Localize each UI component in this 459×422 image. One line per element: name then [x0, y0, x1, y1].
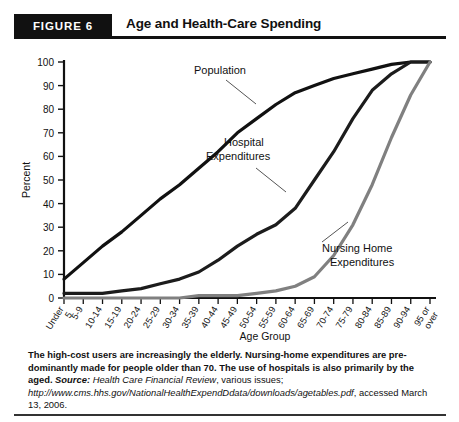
- annotation-hospital-expenditures-line2: Expenditures: [206, 150, 271, 162]
- x-tick-label: 15-19: [103, 305, 124, 330]
- header-rule: [14, 36, 446, 39]
- x-tick-label: 60-64: [276, 305, 297, 330]
- x-tick-label: Under5: [44, 305, 74, 337]
- y-tick-label: 100: [37, 57, 54, 68]
- x-tick-label: 90-94: [391, 305, 412, 330]
- y-tick-label: 10: [43, 269, 55, 280]
- y-tick-label: 60: [43, 151, 55, 162]
- annotation-nursing-home-line1: Nursing Home: [322, 242, 392, 254]
- source-journal: Health Care Financial Review: [93, 374, 217, 385]
- chart-panel: 0102030405060708090100PercentUnder55-910…: [18, 46, 442, 344]
- annotation-hospital-expenditures-line1: Hospital: [224, 136, 264, 148]
- x-tick-label: 75-79: [334, 305, 355, 330]
- y-tick-label: 90: [43, 81, 55, 92]
- y-tick-label: 80: [43, 104, 55, 115]
- x-tick-label: 40-44: [199, 305, 220, 330]
- x-tick-label: 80-84: [353, 305, 374, 330]
- leader-line-population: [226, 80, 256, 104]
- source-url-part2: NationalHealthExpendDdata/downloads/aget…: [129, 387, 354, 398]
- x-tick-label: 25-29: [141, 305, 162, 330]
- x-tick-label: 20-24: [122, 305, 143, 330]
- figure-number-badge: FIGURE 6: [14, 14, 112, 37]
- source-middle: , various issues;: [216, 374, 283, 385]
- x-tick-label: 35-39: [180, 305, 201, 330]
- y-axis-title: Percent: [20, 162, 32, 198]
- line-chart: 0102030405060708090100PercentUnder55-910…: [18, 46, 442, 344]
- y-tick-label: 70: [43, 128, 55, 139]
- bottom-rule: [14, 414, 446, 416]
- y-tick-label: 40: [43, 199, 55, 210]
- y-tick-label: 50: [43, 175, 55, 186]
- svg-text:Under: Under: [44, 305, 66, 332]
- caption-line-1: The high-cost users are increasingly the…: [28, 349, 407, 360]
- figure-caption: The high-cost users are increasingly the…: [28, 349, 434, 412]
- y-tick-label: 30: [43, 222, 55, 233]
- x-tick-label: 30-34: [160, 305, 181, 330]
- caption-line-2: dominantly made for people older than 70…: [28, 362, 397, 373]
- y-tick-label: 20: [43, 246, 55, 257]
- source-label: Source:: [55, 374, 90, 385]
- annotation-nursing-home-line2: Expenditures: [330, 256, 395, 268]
- x-tick-label: 10-14: [83, 305, 104, 330]
- x-tick-label: 45-49: [218, 305, 239, 330]
- leader-line-hospital: [256, 168, 286, 192]
- x-tick-label: 50-54: [237, 305, 258, 330]
- figure-header: FIGURE 6 Age and Health-Care Spending: [14, 14, 446, 38]
- y-tick-label: 0: [48, 293, 54, 304]
- source-url-part1: http://www.cms.hhs.gov/: [28, 387, 129, 398]
- x-tick-label: 95 orover: [412, 305, 440, 333]
- x-axis-title: Age Group: [240, 330, 291, 342]
- x-tick-label: 85-89: [372, 305, 393, 330]
- annotation-population: Population: [194, 64, 246, 76]
- figure-title: Age and Health-Care Spending: [126, 16, 321, 31]
- x-tick-label: 70-74: [314, 305, 335, 330]
- x-tick-label: 65-69: [295, 305, 316, 330]
- x-tick-label: 55-59: [257, 305, 278, 330]
